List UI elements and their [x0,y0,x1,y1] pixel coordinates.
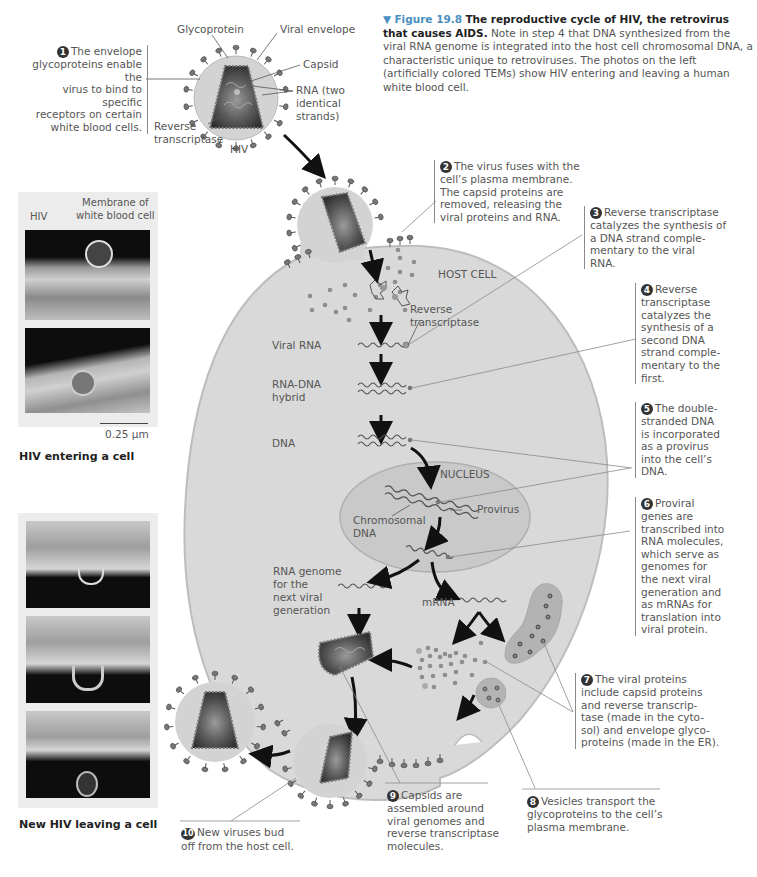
step-4: 4Reverse transcriptase catalyzes the syn… [635,283,751,384]
step-2: 2The virus fuses with the cell’s plasma … [434,160,590,223]
label-nucleus: NUCLEUS [440,468,490,481]
label-glycoprotein: Glycoprotein [177,23,244,36]
step-6: 6Proviral genes are transcribed into RNA… [635,497,751,636]
label-provirus: Provirus [477,503,519,516]
label-reverse-transcriptase-virion: Reverse transcriptase [154,120,223,146]
step-8: 8Vesicles transport the glycoproteins to… [527,795,687,833]
tem-photo-budding-1 [26,521,150,608]
label-rna: RNA (two identical strands) [296,84,345,123]
label-capsid: Capsid [303,58,338,71]
photo-caption-entering: HIV entering a cell [19,450,134,463]
step-number-badge: 3 [590,207,602,219]
step-number-badge: 2 [440,161,452,173]
step-5: 5The double- stranded DNA is incorporate… [635,402,751,478]
step-number-badge: 10 [181,828,195,840]
label-mrna: mRNA [422,596,455,609]
photo-label-membrane: Membrane of white blood cell [76,196,155,222]
tem-photo-budding-2 [26,616,150,703]
step-number-badge: 6 [641,498,653,510]
step-1: 1The envelope glycoproteins enable the v… [20,45,148,134]
tem-photo-budding-3 [26,711,150,798]
step-9: 9Capsids are assembled around viral geno… [387,789,517,852]
step-number-badge: 4 [641,284,653,296]
label-viral-rna: Viral RNA [272,339,321,352]
step-7: 7The viral proteins include capsid prote… [575,673,751,749]
photo-caption-leaving: New HIV leaving a cell [19,818,157,831]
step-number-badge: 7 [581,674,593,686]
label-chromosomal-dna: Chromosomal DNA [353,514,426,540]
vesicle [476,678,506,708]
label-rna-dna-hybrid: RNA-DNA hybrid [272,378,321,404]
label-dna: DNA [272,437,295,450]
label-hiv: HIV [230,143,248,156]
tem-photo-hiv-entering [25,328,150,413]
scale-bar-label: 0.25 µm [105,428,149,441]
label-host-cell: HOST CELL [438,268,496,281]
label-reverse-transcriptase-cell: Reverse transcriptase [410,303,479,329]
step-number-badge: 9 [387,790,399,802]
step-number-badge: 1 [57,46,69,58]
label-rna-genome: RNA genome for the next viral generation [273,565,342,617]
photo-panel-leaving [18,513,158,808]
tem-photo-hiv-binding [25,230,150,320]
step-10: 10New viruses bud off from the host cell… [181,826,321,853]
step-number-badge: 5 [641,403,653,415]
photo-panel-entering: HIV Membrane of white blood cell [18,192,158,427]
step-3: 3Reverse transcriptase catalyzes the syn… [584,206,750,269]
scale-bar [100,423,148,424]
step-number-badge: 8 [527,796,539,808]
label-viral-envelope: Viral envelope [280,23,355,36]
photo-label-hiv: HIV [30,210,47,223]
hiv-particle [85,240,113,268]
